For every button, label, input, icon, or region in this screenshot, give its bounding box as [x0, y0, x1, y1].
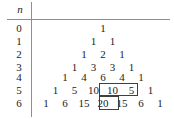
triangle-cell: 1: [46, 84, 65, 97]
triangle-cell: 1: [75, 48, 94, 61]
index-cell-n4: 4: [11, 71, 27, 84]
triangle-cell: 4: [113, 71, 132, 84]
index-cell-n1: 1: [11, 35, 27, 48]
triangle-cell-highlighted-addend: 10: [103, 84, 122, 97]
triangle-cell: 6: [132, 97, 151, 110]
triangle-cell: 1: [84, 35, 103, 48]
triangle-cell-highlighted-sum: 15: [113, 97, 132, 110]
triangle-row-6: 1 6 15 20 15 6 1: [32, 97, 174, 110]
index-column-header: n: [13, 3, 27, 16]
triangle-row-1: 1 1: [32, 35, 174, 48]
triangle-cell: 1: [37, 97, 56, 110]
triangle-cell: 4: [75, 71, 94, 84]
triangle-cell: 1: [132, 71, 151, 84]
triangle-cell: 10: [84, 84, 103, 97]
triangle-cell: 1: [151, 97, 170, 110]
triangle-row-5: 1 5 10 10 5 1: [32, 84, 174, 97]
index-cell-n5: 5: [11, 84, 27, 97]
triangle-row-4: 1 4 6 4 1: [32, 71, 174, 84]
triangle-row-0: 1: [32, 22, 174, 35]
triangle-cell: 1: [56, 71, 75, 84]
triangle-cell: 1: [141, 84, 160, 97]
triangle-row-2: 1 2 1: [32, 48, 174, 61]
triangle-cell: 1: [103, 35, 122, 48]
triangle-cell: 15: [75, 97, 94, 110]
index-cell-n2: 2: [11, 48, 27, 61]
triangle-cell: 5: [65, 84, 84, 97]
triangle-cell: 20: [94, 97, 113, 110]
index-cell-n6: 6: [11, 97, 27, 110]
triangle-cell: 6: [94, 71, 113, 84]
triangle-cell: 6: [56, 97, 75, 110]
triangle-cell-highlighted-addend: 5: [122, 84, 141, 97]
triangle-cell: 1: [113, 48, 132, 61]
triangle-cell: 2: [94, 48, 113, 61]
pascals-triangle-figure: n 0 1 2 3 4 5 6 1 1 1 1 2 1 1 3 3 1 1 4 …: [0, 0, 174, 119]
triangle-cell: 1: [94, 22, 113, 35]
index-cell-n0: 0: [11, 22, 27, 35]
